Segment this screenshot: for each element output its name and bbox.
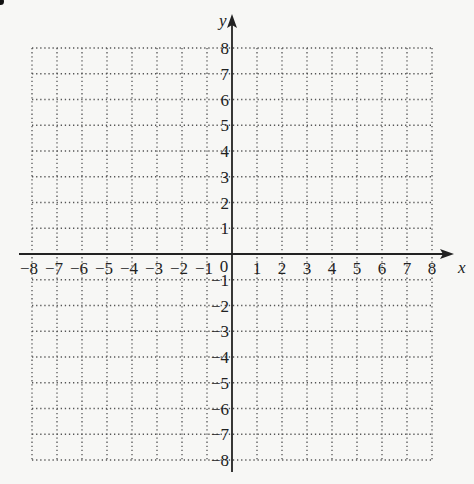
y-axis-label: y bbox=[217, 11, 227, 30]
y-tick-label: 3 bbox=[221, 168, 230, 187]
y-tick-label: 5 bbox=[221, 116, 230, 135]
x-tick-label: −5 bbox=[95, 259, 113, 278]
y-tick-label: −6 bbox=[211, 400, 229, 419]
y-tick-label: −4 bbox=[211, 348, 230, 367]
x-tick-label: −4 bbox=[120, 259, 139, 278]
x-axis-label: x bbox=[457, 258, 466, 277]
x-tick-label: 7 bbox=[403, 259, 412, 278]
x-tick-label: −2 bbox=[170, 259, 188, 278]
origin-label: 0 bbox=[220, 257, 229, 276]
y-tick-label: −8 bbox=[211, 451, 229, 470]
x-tick-label: −7 bbox=[45, 259, 64, 278]
y-tick-label: 8 bbox=[221, 39, 230, 58]
x-tick-label: −6 bbox=[70, 259, 88, 278]
y-tick-label: 6 bbox=[221, 91, 230, 110]
x-tick-label: 6 bbox=[378, 259, 387, 278]
x-tick-label: 4 bbox=[328, 259, 337, 278]
x-tick-label: −8 bbox=[20, 259, 38, 278]
y-tick-label: 7 bbox=[221, 65, 230, 84]
x-tick-label: 2 bbox=[278, 259, 287, 278]
y-tick-label: 1 bbox=[221, 219, 230, 238]
x-tick-label: 1 bbox=[253, 259, 262, 278]
x-tick-label: 3 bbox=[303, 259, 312, 278]
y-tick-label: 2 bbox=[221, 194, 230, 213]
y-tick-label: 4 bbox=[221, 142, 230, 161]
y-tick-label: −2 bbox=[211, 297, 229, 316]
coordinate-grid: xy−8−7−6−5−4−3−2−112345678−8−7−6−5−4−3−2… bbox=[0, 0, 474, 484]
y-tick-label: −5 bbox=[211, 374, 229, 393]
y-tick-label: −3 bbox=[211, 322, 229, 341]
y-tick-label: −7 bbox=[211, 425, 230, 444]
x-tick-label: 5 bbox=[353, 259, 362, 278]
x-tick-label: 8 bbox=[428, 259, 437, 278]
x-tick-label: −3 bbox=[145, 259, 163, 278]
